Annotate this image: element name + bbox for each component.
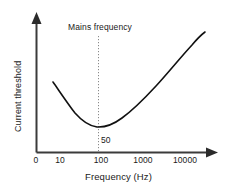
y-axis-title: Current threshold — [14, 22, 26, 132]
x-tick-label-10000: 10000 — [165, 156, 205, 165]
x-tick-label-1000: 1000 — [123, 156, 163, 165]
chart-figure: Current threshold Frequency (Hz) 0 10 10… — [0, 0, 227, 192]
x-tick-label-10: 10 — [40, 156, 80, 165]
x-axis-arrow-icon — [206, 148, 218, 158]
mains-frequency-annotation-label: Mains frequency — [0, 23, 200, 32]
x-tick-label-100: 100 — [81, 156, 121, 165]
x-axis-title: Frequency (Hz) — [0, 172, 227, 182]
mains-frequency-value-label: 50 — [101, 136, 111, 145]
current-threshold-curve — [53, 32, 205, 127]
